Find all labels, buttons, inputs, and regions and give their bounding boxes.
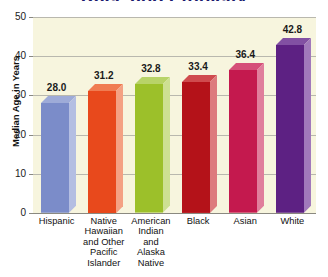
bar-value-label: 36.4 [219,49,271,60]
x-label-line: Black [173,216,224,226]
x-axis-label: Asian [220,216,271,226]
y-axis-label: Median Age in Years [10,27,21,177]
x-label-line: Native [125,258,176,268]
gridline [33,213,316,214]
y-tick-mark [29,17,33,18]
x-label-line: Hawaiian [78,226,129,236]
bar [229,63,264,213]
y-tick-mark [29,56,33,57]
y-tick-label: 30 [0,89,26,100]
x-axis-label: NativeHawaiianand OtherPacificIslander [78,216,129,268]
x-label-line: Pacific [78,247,129,257]
x-axis-label: Hispanic [31,216,82,226]
gridline [33,17,316,18]
x-axis-label: White [267,216,318,226]
x-label-line: Islander [78,258,129,268]
y-tick-mark [29,95,33,96]
chart-figure: Race and Ethnicity Median Age in Years 0… [0,0,328,277]
gridline [33,56,316,57]
x-label-line: Hispanic [31,216,82,226]
bar [88,84,123,213]
y-tick-label: 40 [0,50,26,61]
x-axis-label: AmericanIndianandAlaskaNative [125,216,176,268]
bar [135,77,170,213]
y-tick-mark [29,174,33,175]
y-tick-label: 0 [0,207,26,218]
bar [41,96,76,213]
x-label-line: White [267,216,318,226]
y-tick-mark [29,213,33,214]
bar-value-label: 32.8 [125,63,177,74]
x-label-line: Native [78,216,129,226]
x-label-line: Asian [220,216,271,226]
x-label-line: and [125,237,176,247]
x-axis-label: Black [173,216,224,226]
bar [182,75,217,213]
y-tick-label: 50 [0,11,26,22]
x-label-line: Indian [125,226,176,236]
bar-value-label: 31.2 [78,70,130,81]
x-label-line: Alaska [125,247,176,257]
bar-value-label: 28.0 [31,82,83,93]
x-label-line: American [125,216,176,226]
bar-value-label: 42.8 [266,24,318,35]
y-tick-label: 10 [0,168,26,179]
chart-title: Race and Ethnicity [0,0,328,1]
y-tick-label: 20 [0,129,26,140]
bar [276,38,311,213]
x-label-line: and Other [78,237,129,247]
y-tick-mark [29,135,33,136]
bar-value-label: 33.4 [172,61,224,72]
